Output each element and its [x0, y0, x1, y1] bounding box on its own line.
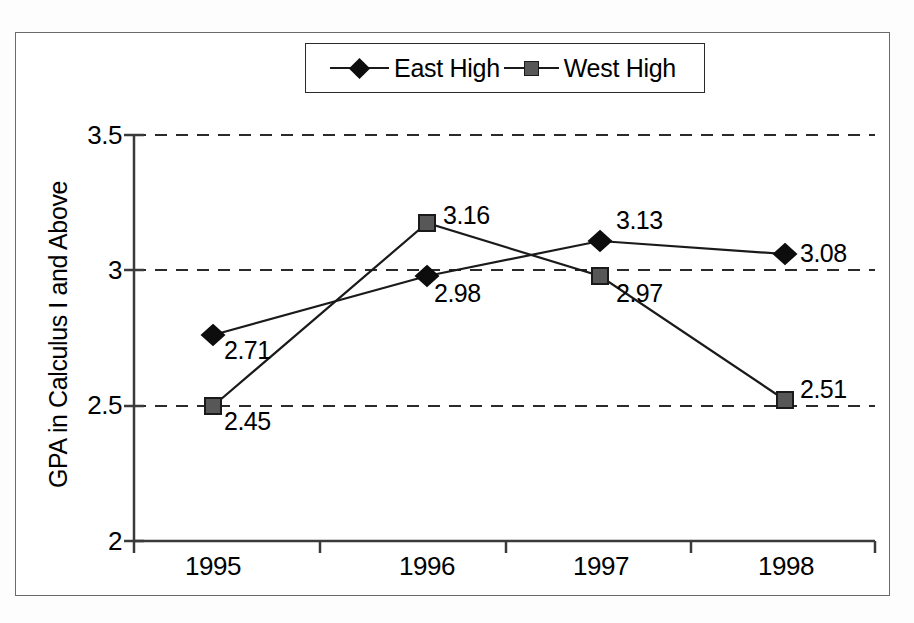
data-label-east-1995: 2.71	[224, 338, 271, 363]
data-label-west-1996: 3.16	[443, 203, 490, 228]
plot-area	[0, 0, 914, 623]
data-point-west-1995	[205, 398, 221, 414]
data-label-west-1998: 2.51	[800, 377, 847, 402]
data-label-east-1997: 3.13	[616, 208, 663, 233]
data-label-east-1998: 3.08	[800, 241, 847, 266]
data-point-west-1996	[419, 215, 435, 231]
data-point-west-1997	[592, 268, 608, 284]
data-label-west-1997: 2.97	[616, 281, 663, 306]
data-label-west-1995: 2.45	[224, 409, 271, 434]
series-line-east-high	[213, 241, 785, 335]
data-point-east-1998	[774, 244, 796, 264]
series-line-west-high	[213, 223, 785, 406]
data-point-east-1997	[589, 231, 611, 251]
data-label-east-1996: 2.98	[434, 281, 481, 306]
data-point-east-1995	[202, 325, 224, 345]
chart-figure: East High West High GPA in Calculus I an…	[0, 0, 914, 623]
data-point-west-1998	[777, 392, 793, 408]
